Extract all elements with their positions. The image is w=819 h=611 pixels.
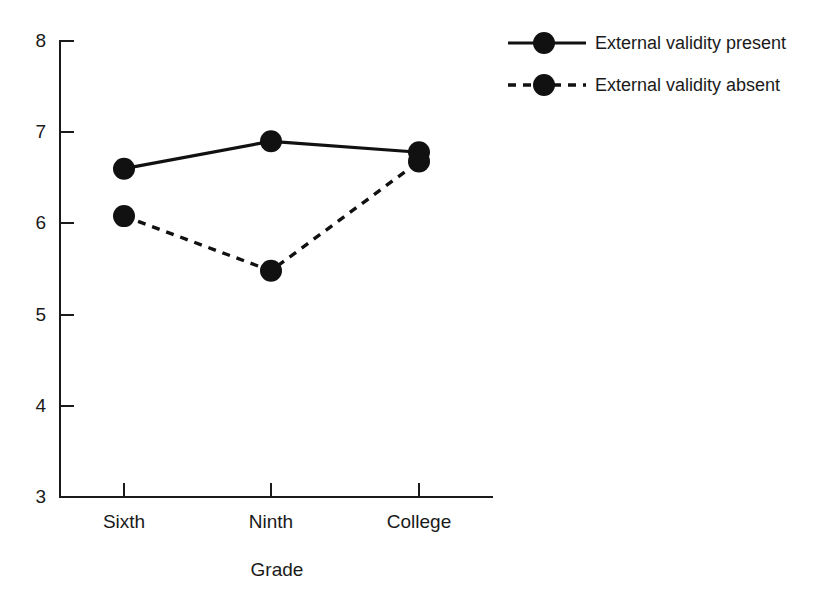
legend-marker-dot bbox=[533, 74, 555, 96]
series-external-validity-absent bbox=[113, 150, 430, 281]
series-external-validity-present bbox=[113, 130, 430, 179]
x-label-college: College bbox=[387, 511, 451, 532]
chart-container: 8 7 6 5 4 3 Sixth Ninth College Grade bbox=[0, 0, 819, 611]
data-point bbox=[113, 158, 135, 180]
y-tick-label-6: 6 bbox=[35, 212, 46, 233]
data-point bbox=[113, 205, 135, 227]
legend-label-absent: External validity absent bbox=[595, 75, 780, 95]
x-label-ninth: Ninth bbox=[249, 511, 293, 532]
x-axis-title: Grade bbox=[251, 559, 304, 580]
y-tick-label-7: 7 bbox=[35, 121, 46, 142]
data-point bbox=[408, 150, 430, 172]
legend-marker-dot bbox=[533, 32, 555, 54]
series-1-line bbox=[124, 161, 419, 270]
line-chart: 8 7 6 5 4 3 Sixth Ninth College Grade bbox=[0, 0, 819, 611]
legend-item-present[interactable]: External validity present bbox=[508, 32, 786, 54]
legend: External validity present External valid… bbox=[508, 32, 786, 96]
data-point bbox=[260, 260, 282, 282]
x-label-sixth: Sixth bbox=[103, 511, 145, 532]
y-tick-label-5: 5 bbox=[35, 304, 46, 325]
legend-item-absent[interactable]: External validity absent bbox=[508, 74, 780, 96]
y-axis-ticks bbox=[60, 41, 74, 497]
y-tick-label-4: 4 bbox=[35, 395, 46, 416]
y-tick-label-8: 8 bbox=[35, 30, 46, 51]
y-tick-label-3: 3 bbox=[35, 486, 46, 507]
x-category-labels: Sixth Ninth College bbox=[103, 511, 451, 532]
y-tick-labels: 8 7 6 5 4 3 bbox=[35, 30, 46, 507]
x-axis-ticks bbox=[124, 483, 419, 497]
data-point bbox=[260, 130, 282, 152]
legend-label-present: External validity present bbox=[595, 33, 786, 53]
